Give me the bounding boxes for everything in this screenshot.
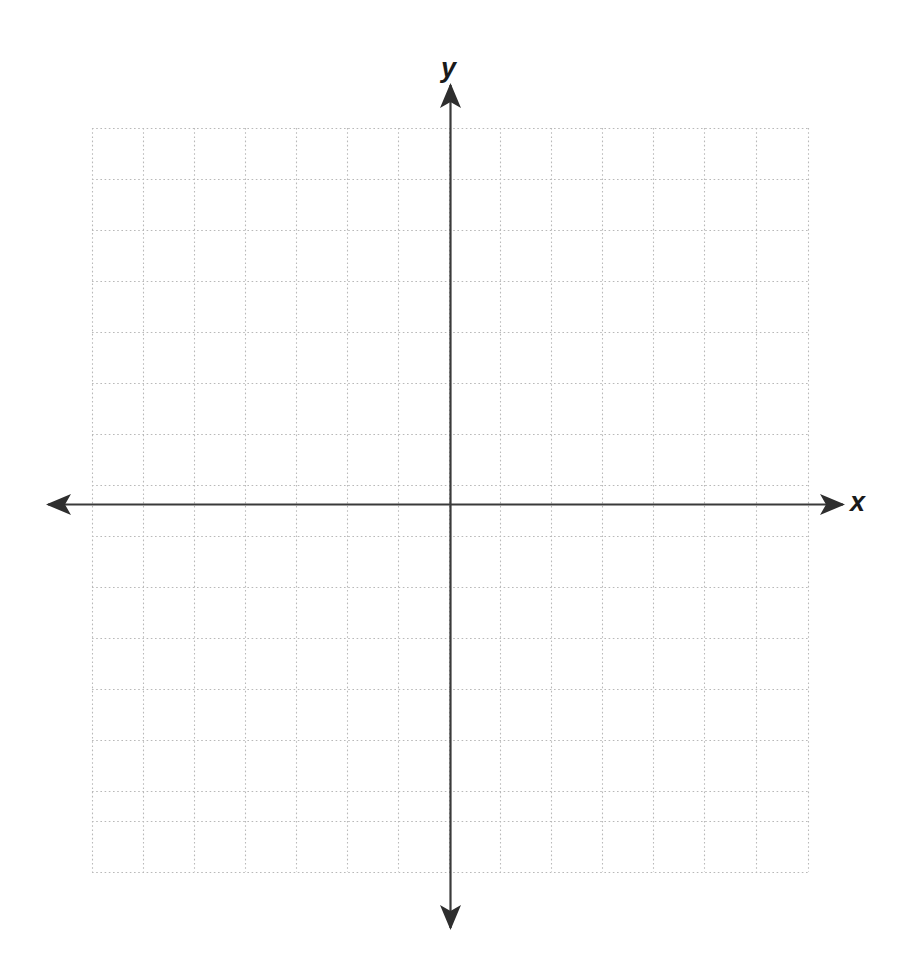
y-axis bbox=[440, 83, 461, 930]
y-axis-label: y bbox=[441, 55, 456, 82]
coordinate-grid-plot bbox=[0, 0, 913, 975]
x-axis-label: x bbox=[850, 489, 865, 516]
graph-page: x y bbox=[0, 0, 913, 975]
x-axis bbox=[46, 494, 845, 515]
